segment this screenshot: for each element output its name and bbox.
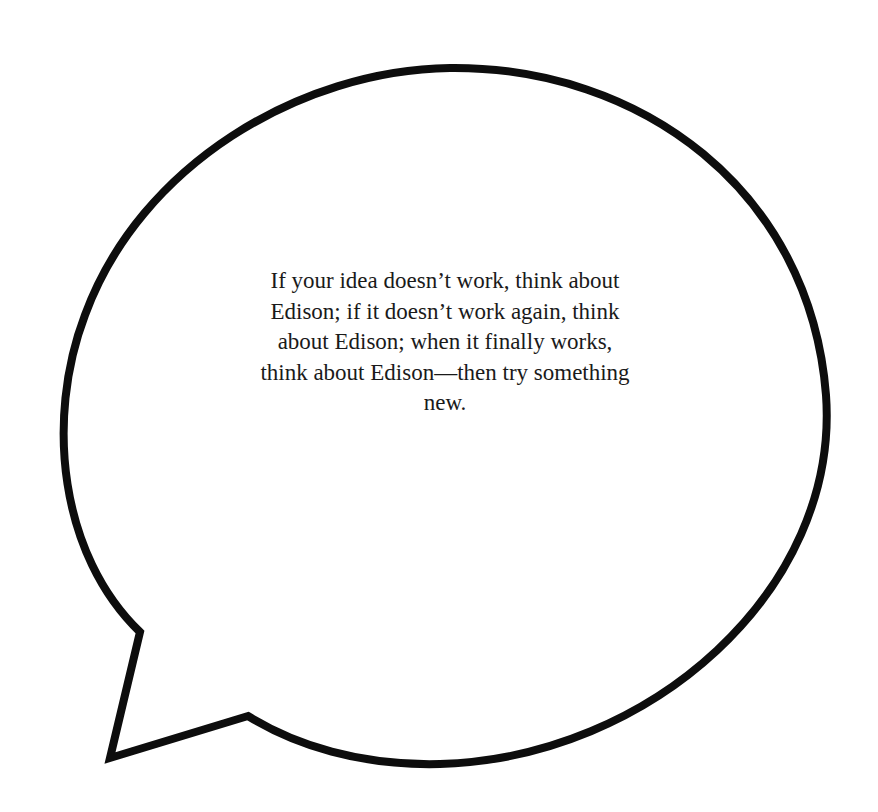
quote-line-2: Edison; if it doesn’t work again, think [205, 297, 685, 328]
quote-line-3: about Edison; when it finally works, [205, 327, 685, 358]
quote-text: If your idea doesn’t work, think about E… [205, 266, 685, 419]
quote-line-1: If your idea doesn’t work, think about [205, 266, 685, 297]
quote-line-5: new. [205, 388, 685, 419]
quote-line-4: think about Edison—then try something [205, 358, 685, 389]
